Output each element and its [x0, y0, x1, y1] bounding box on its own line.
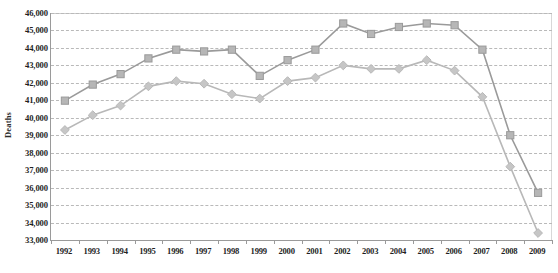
- x-axis-tick: [107, 240, 108, 244]
- x-axis-tick: [524, 240, 525, 244]
- data-point-marker: [506, 162, 515, 171]
- x-axis-tick: [51, 240, 52, 244]
- y-tick-label: 42,000: [25, 78, 48, 88]
- data-point-marker: [367, 64, 376, 73]
- data-point-marker: [172, 77, 181, 86]
- data-point-marker: [61, 126, 70, 135]
- data-point-marker: [88, 111, 97, 120]
- data-point-marker: [200, 48, 207, 55]
- x-axis-tick: [469, 240, 470, 244]
- data-point-marker: [340, 20, 347, 27]
- plot-area: [50, 13, 552, 241]
- y-tick-label: 46,000: [25, 8, 48, 18]
- x-tick-label: 2008: [501, 246, 517, 256]
- x-tick-label: 1993: [84, 246, 100, 256]
- x-axis-tick: [329, 240, 330, 244]
- data-point-marker: [255, 94, 264, 103]
- x-tick-label: 2002: [334, 246, 350, 256]
- x-axis-tick: [246, 240, 247, 244]
- x-axis-tick: [413, 240, 414, 244]
- data-point-marker: [228, 46, 235, 53]
- x-tick-label: 1995: [139, 246, 155, 256]
- data-point-marker: [256, 72, 263, 79]
- y-axis-title-text: Deaths: [3, 112, 13, 138]
- y-tick-label: 36,000: [25, 183, 48, 193]
- data-point-marker: [395, 23, 402, 30]
- y-tick-label: 44,000: [25, 43, 48, 53]
- x-axis-tick: [190, 240, 191, 244]
- series-layer: [51, 13, 552, 240]
- x-tick-label: 2007: [473, 246, 489, 256]
- data-point-marker: [395, 64, 404, 73]
- data-point-marker: [451, 22, 458, 29]
- y-tick-label: 37,000: [25, 165, 48, 175]
- x-tick-label: 2000: [278, 246, 294, 256]
- x-axis-tick: [385, 240, 386, 244]
- data-point-marker: [117, 71, 124, 78]
- x-axis-tick: [496, 240, 497, 244]
- x-tick-label: 2009: [529, 246, 545, 256]
- line-chart: Deaths 46,00045,00044,00043,00042,00041,…: [0, 0, 558, 273]
- data-point-marker: [534, 189, 541, 196]
- y-tick-label: 40,000: [25, 113, 48, 123]
- series-line-1: [65, 23, 538, 192]
- x-tick-label: 1996: [167, 246, 183, 256]
- data-point-marker: [173, 46, 180, 53]
- x-axis-tick: [162, 240, 163, 244]
- x-axis-tick: [552, 240, 553, 244]
- x-axis-tick: [357, 240, 358, 244]
- y-tick-label: 43,000: [25, 60, 48, 70]
- data-point-marker: [339, 61, 348, 70]
- y-tick-label: 34,000: [25, 218, 48, 228]
- y-tick-label: 41,000: [25, 95, 48, 105]
- data-point-marker: [367, 30, 374, 37]
- x-axis-tick: [441, 240, 442, 244]
- x-tick-label: 2005: [418, 246, 434, 256]
- x-tick-label: 1999: [251, 246, 267, 256]
- data-point-marker: [507, 132, 514, 139]
- data-point-marker: [422, 56, 431, 65]
- x-tick-label: 1992: [56, 246, 72, 256]
- x-tick-label: 2006: [445, 246, 461, 256]
- x-axis-tick: [79, 240, 80, 244]
- y-tick-label: 45,000: [25, 25, 48, 35]
- x-tick-label: 2004: [390, 246, 406, 256]
- x-tick-label: 2001: [306, 246, 322, 256]
- y-tick-label: 39,000: [25, 130, 48, 140]
- y-tick-label: 35,000: [25, 200, 48, 210]
- data-point-marker: [312, 46, 319, 53]
- data-point-marker: [89, 81, 96, 88]
- x-tick-label: 1994: [111, 246, 127, 256]
- x-axis-tick: [274, 240, 275, 244]
- x-axis-tick-labels: 1992199319941995199619971998199920002001…: [50, 246, 551, 266]
- y-tick-label: 38,000: [25, 148, 48, 158]
- x-tick-label: 1998: [223, 246, 239, 256]
- x-tick-label: 1997: [195, 246, 211, 256]
- data-point-marker: [479, 46, 486, 53]
- data-point-marker: [145, 55, 152, 62]
- data-point-marker: [311, 73, 320, 82]
- x-axis-tick: [218, 240, 219, 244]
- data-point-marker: [284, 57, 291, 64]
- x-axis-tick: [135, 240, 136, 244]
- data-point-marker: [534, 229, 543, 238]
- y-tick-label: 33,000: [25, 235, 48, 245]
- data-point-marker: [228, 90, 237, 99]
- x-tick-label: 2003: [362, 246, 378, 256]
- data-point-marker: [61, 97, 68, 104]
- data-point-marker: [200, 79, 209, 88]
- y-axis-tick-labels: 46,00045,00044,00043,00042,00041,00040,0…: [14, 0, 50, 273]
- x-axis-tick: [302, 240, 303, 244]
- data-point-marker: [283, 77, 292, 86]
- series-line-2: [65, 60, 538, 233]
- data-point-marker: [423, 20, 430, 27]
